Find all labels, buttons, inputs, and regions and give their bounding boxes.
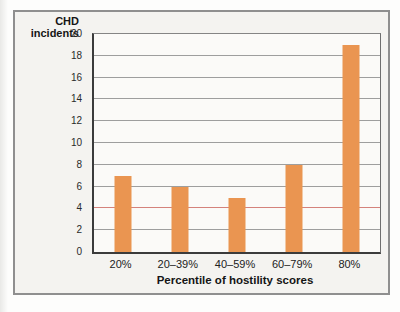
chart-card: CHD incidents 02468101214161820 20%20–39… xyxy=(13,10,390,295)
y-tick-label: 10 xyxy=(71,137,82,148)
gridline xyxy=(94,77,380,78)
x-tick-label: 40–59% xyxy=(215,258,255,270)
gridline xyxy=(94,120,380,121)
y-tick-label: 20 xyxy=(71,28,82,39)
plot-area xyxy=(92,33,381,254)
x-tick-label: 80% xyxy=(338,258,360,270)
bar xyxy=(171,187,188,252)
y-tick-label: 6 xyxy=(76,180,82,191)
y-axis-ticks: 02468101214161820 xyxy=(15,33,86,251)
gridline xyxy=(94,186,380,187)
x-tick-label: 20–39% xyxy=(158,258,198,270)
bar xyxy=(286,165,303,252)
y-axis-title-line1: CHD xyxy=(15,15,79,27)
y-tick-label: 16 xyxy=(71,71,82,82)
gridline xyxy=(94,55,380,56)
gridline xyxy=(94,142,380,143)
page: CHD incidents 02468101214161820 20%20–39… xyxy=(0,0,400,312)
bar xyxy=(343,45,360,252)
bar xyxy=(229,198,246,253)
y-tick-label: 4 xyxy=(76,202,82,213)
x-tick-label: 60–79% xyxy=(272,258,312,270)
x-tick-label: 20% xyxy=(110,258,132,270)
bar xyxy=(114,176,131,252)
gridline xyxy=(94,164,380,165)
y-tick-label: 18 xyxy=(71,49,82,60)
x-axis-title: Percentile of hostility scores xyxy=(92,274,378,286)
gridline xyxy=(94,98,380,99)
y-tick-label: 0 xyxy=(76,246,82,257)
y-tick-label: 14 xyxy=(71,93,82,104)
y-tick-label: 12 xyxy=(71,115,82,126)
x-axis-ticks: 20%20–39%40–59%60–79%80% xyxy=(92,258,378,272)
y-tick-label: 8 xyxy=(76,158,82,169)
y-tick-label: 2 xyxy=(76,224,82,235)
